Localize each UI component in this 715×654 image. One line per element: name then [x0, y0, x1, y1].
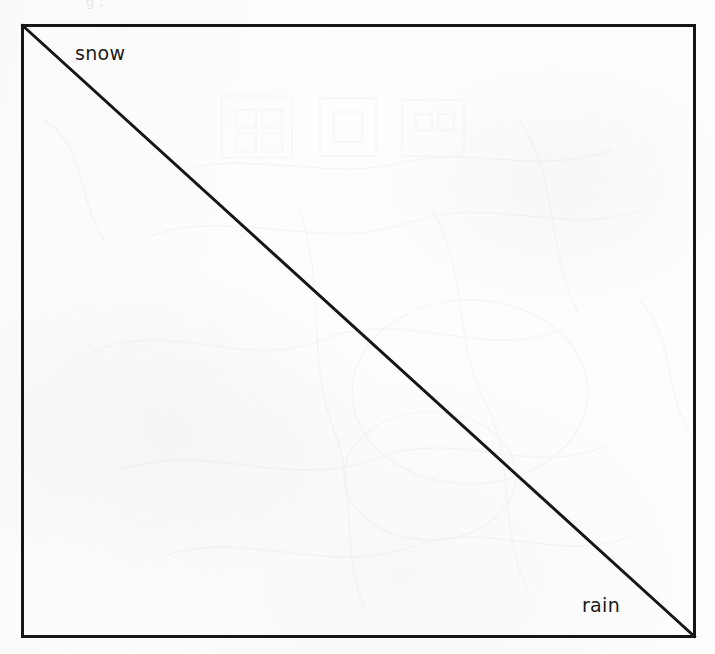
top-edge-text-fragment: g ,	[86, 0, 104, 9]
diagonal-line	[23, 26, 695, 637]
snow-rain-diagram	[21, 24, 696, 638]
label-rain: rain	[582, 596, 620, 615]
scanned-page: g , snow rain	[0, 0, 715, 654]
label-snow: snow	[75, 44, 125, 63]
